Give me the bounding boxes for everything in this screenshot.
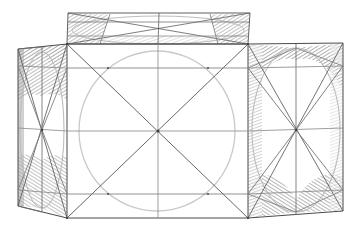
front-top-right-corner-node (247, 43, 249, 45)
front-top-left-corner-node (66, 43, 68, 45)
perspective-drawing-canvas (0, 0, 360, 238)
front-lower-right-node (207, 193, 209, 195)
construction-drawing (0, 0, 360, 238)
front-lower-left-node (107, 193, 109, 195)
left-center-node (41, 129, 43, 131)
front-center-node (157, 130, 160, 133)
front-upper-right-node (207, 67, 209, 69)
front-bottom-left-corner-node (66, 217, 68, 219)
front-upper-left-node (107, 67, 109, 69)
front-bottom-right-corner-node (247, 217, 249, 219)
left-panel-upper-right-wedge (42, 44, 67, 100)
left-panel-bottom-right-bay (42, 155, 67, 218)
right-center-node (295, 129, 298, 132)
